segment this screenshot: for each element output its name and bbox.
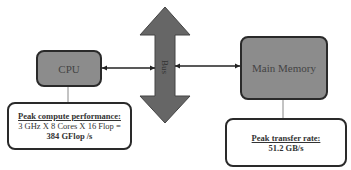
bus-label: Bus (160, 60, 170, 74)
cpu-label: CPU (58, 63, 79, 75)
cpu-box: CPU (36, 50, 102, 87)
cpu-note-result: 384 GFlop /s (47, 131, 93, 141)
arrowhead-icon (150, 66, 155, 71)
cpu-note-formula: 3 GHz X 8 Cores X 16 Flop = (18, 121, 121, 131)
main-memory-label: Main Memory (252, 62, 316, 74)
cpu-performance-note: Peak compute performance: 3 GHz X 8 Core… (7, 102, 132, 150)
memory-note-value: 51.2 GB/s (269, 143, 304, 153)
memory-note-heading: Peak transfer rate: (252, 133, 321, 143)
memory-transfer-note: Peak transfer rate: 51.2 GB/s (225, 118, 347, 167)
arrowhead-icon (102, 66, 107, 71)
arrowhead-icon (175, 64, 180, 69)
main-memory-box: Main Memory (240, 36, 328, 100)
cpu-note-heading: Peak compute performance: (18, 111, 121, 121)
